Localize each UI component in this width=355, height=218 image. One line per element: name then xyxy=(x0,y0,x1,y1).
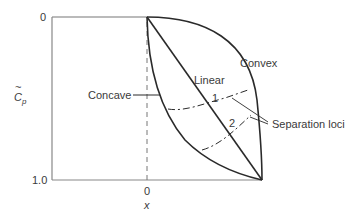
x-axis-label: x xyxy=(143,199,150,211)
separation-locus-1 xyxy=(168,90,248,110)
y-axis-accent: ~ xyxy=(15,81,21,93)
loci-pointer-1 xyxy=(232,98,268,122)
separation-locus-2 xyxy=(202,115,251,150)
locus-1-label: 1 xyxy=(212,92,218,104)
diagram-canvas: 0 1.0 Cp ~ 0 x Convex Linear Concave 1 2… xyxy=(0,0,355,218)
linear-label: Linear xyxy=(194,74,225,86)
y-tick-one: 1.0 xyxy=(32,174,47,186)
concave-label: Concave xyxy=(88,89,131,101)
convex-label: Convex xyxy=(240,57,278,69)
separation-loci-label: Separation loci xyxy=(272,118,345,130)
y-tick-zero: 0 xyxy=(40,11,46,23)
x-tick-zero: 0 xyxy=(144,185,150,197)
locus-2-label: 2 xyxy=(229,117,235,129)
y-axis-label: Cp xyxy=(14,91,27,106)
